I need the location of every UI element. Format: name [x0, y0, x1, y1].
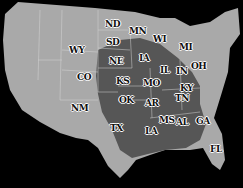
state-label-nd: ND	[105, 20, 120, 29]
state-label-co: CO	[77, 73, 91, 82]
state-label-ky: KY	[180, 84, 193, 93]
state-label-mn: MN	[129, 27, 146, 36]
state-label-tn: TN	[175, 94, 189, 103]
state-label-ne: NE	[109, 57, 123, 66]
state-label-in: IN	[176, 67, 187, 76]
state-label-nm: NM	[71, 104, 88, 113]
state-label-ok: OK	[119, 96, 134, 105]
state-label-fl: FL	[210, 145, 222, 154]
state-label-wi: WI	[153, 35, 166, 44]
state-label-ar: AR	[145, 99, 158, 108]
state-label-tx: TX	[110, 124, 123, 133]
state-label-ia: IA	[139, 54, 149, 63]
state-label-la: LA	[145, 127, 157, 136]
state-label-ga: GA	[196, 117, 210, 126]
state-label-il: IL	[160, 66, 170, 75]
state-label-al: AL	[176, 118, 188, 127]
state-label-wy: WY	[69, 46, 85, 55]
state-label-ks: KS	[116, 77, 129, 86]
state-label-mo: MO	[143, 79, 160, 88]
us-map: ND MN SD WI MI WY NE IA CO KS IL IN OH M…	[0, 0, 243, 188]
state-label-oh: OH	[191, 62, 206, 71]
state-label-sd: SD	[106, 38, 119, 47]
state-label-mi: MI	[179, 43, 192, 52]
us-map-shape	[0, 0, 243, 188]
state-label-ms: MS	[159, 116, 174, 125]
